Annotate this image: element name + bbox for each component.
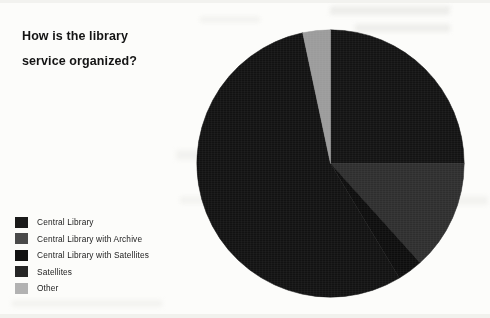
legend-swatch-icon <box>15 283 28 294</box>
legend-swatch-icon <box>15 250 28 261</box>
scan-edge-bottom <box>0 314 490 318</box>
pie-svg <box>196 29 465 298</box>
legend-item: Central Library <box>15 214 195 231</box>
legend-item-label: Central Library with Archive <box>37 234 142 244</box>
legend-swatch-icon <box>15 266 28 277</box>
legend-item: Central Library with Archive <box>15 231 195 248</box>
legend-swatch-icon <box>15 217 28 228</box>
legend-item: Satellites <box>15 264 195 281</box>
page-canvas: How is the library service organized? Ce… <box>0 0 490 318</box>
scan-artifact <box>200 16 260 23</box>
pie-slice <box>331 30 465 164</box>
scan-edge-top <box>0 0 490 3</box>
legend-item: Central Library with Satellites <box>15 247 195 264</box>
legend-item: Other <box>15 280 195 297</box>
pie-chart <box>196 29 465 298</box>
legend-swatch-icon <box>15 233 28 244</box>
scan-artifact <box>330 6 451 15</box>
legend-item-label: Other <box>37 283 59 293</box>
chart-legend: Central Library Central Library with Arc… <box>15 214 195 297</box>
pie-slice-group <box>197 30 464 297</box>
legend-item-label: Satellites <box>37 267 72 277</box>
legend-item-label: Central Library with Satellites <box>37 250 149 260</box>
scan-artifact <box>12 300 162 307</box>
legend-item-label: Central Library <box>37 217 94 227</box>
